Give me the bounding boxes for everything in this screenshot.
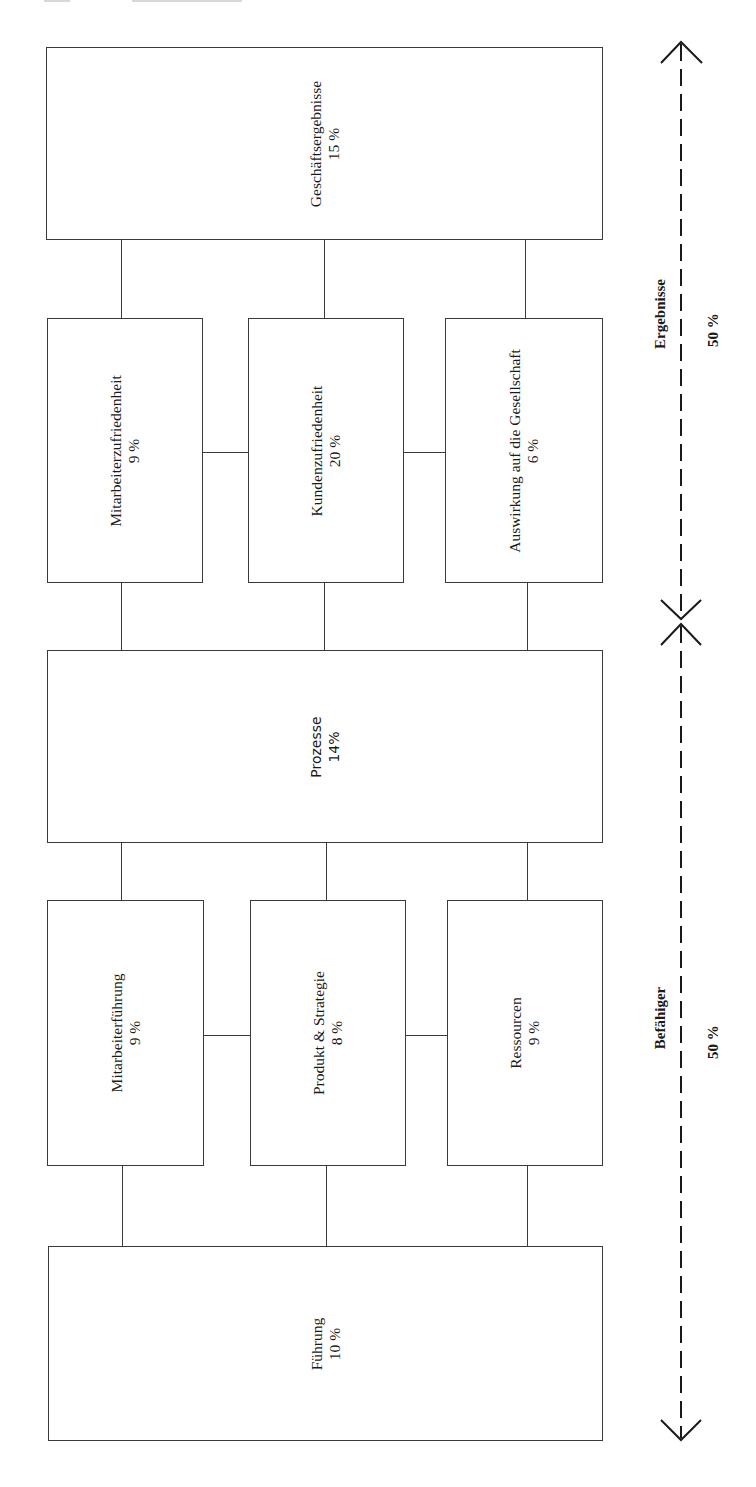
ergebnisse-label: Ergebnisse [652, 279, 669, 349]
axis-arrows [0, 0, 756, 1487]
ergebnisse-weight: 50 % [705, 313, 722, 347]
befaehiger-label: Befähiger [652, 987, 669, 1049]
befaehiger-weight: 50 % [705, 1025, 722, 1059]
